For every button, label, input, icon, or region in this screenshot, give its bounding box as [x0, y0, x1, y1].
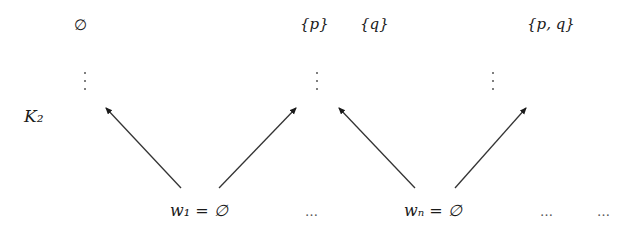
edge-wn-left [339, 108, 415, 188]
edge-w1-right [219, 108, 296, 188]
bottom-node-w1: w₁ = ∅ [170, 203, 228, 219]
bottom-node-wn: wₙ = ∅ [404, 203, 462, 219]
edges [0, 0, 632, 236]
ellipsis-1: … [305, 204, 320, 219]
edge-wn-right [455, 108, 526, 188]
ellipsis-2: … [540, 204, 555, 219]
edge-w1-left [106, 108, 181, 188]
ellipsis-3: … [597, 204, 612, 219]
